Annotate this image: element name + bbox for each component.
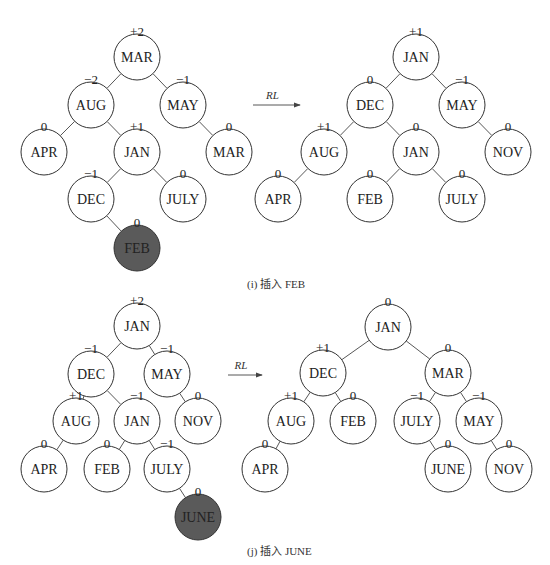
node-key: APR	[251, 462, 279, 477]
node-key: JAN	[124, 145, 150, 160]
node-key: NOV	[494, 462, 524, 477]
tree-edge	[342, 340, 369, 359]
balance-factor: −1	[472, 388, 486, 403]
tree-node-jan: JAN−1	[114, 388, 160, 444]
node-key: DEC	[77, 192, 105, 207]
tree-edge	[491, 441, 497, 450]
tree-edge	[432, 168, 446, 182]
tree-edge	[460, 392, 466, 401]
tree-edge	[107, 121, 121, 135]
tree-node-jan: JAN0	[393, 119, 439, 175]
balance-factor: +1	[130, 119, 144, 134]
node-key: MAY	[446, 98, 477, 113]
node-key: NOV	[493, 145, 523, 160]
tree-edge	[478, 121, 492, 135]
tree-i-after: JAN+1DEC0MAY−1AUG+1JAN0NOV0APR0FEB0JULY0	[255, 24, 531, 222]
tree-edge	[107, 343, 121, 358]
tree-edge	[60, 121, 74, 135]
node-key: FEB	[357, 192, 383, 207]
node-key: JAN	[124, 414, 150, 429]
node-key: MAR	[213, 145, 246, 160]
tree-edge	[386, 168, 400, 182]
tree-node-dec: DEC+1	[300, 340, 346, 396]
tree-node-feb: FEB0	[347, 166, 393, 222]
node-key: APR	[264, 192, 292, 207]
tree-edge	[406, 341, 429, 359]
tree-node-feb: FEB0	[114, 215, 160, 271]
balance-factor: 0	[195, 388, 202, 403]
tree-edge	[149, 346, 155, 355]
tree-node-jan: JAN0	[365, 294, 411, 350]
tree-node-jan: JAN+2	[114, 293, 160, 349]
tree-node-may: MAY−1	[144, 341, 190, 397]
rotation-arrow-j: RL	[228, 359, 262, 375]
balance-factor: +1	[284, 388, 298, 403]
balance-factor: +1	[409, 24, 423, 39]
node-key: DEC	[356, 98, 384, 113]
tree-edge	[429, 392, 435, 401]
node-key: DEC	[309, 366, 337, 381]
node-key: AUG	[76, 98, 106, 113]
node-key: JULY	[446, 192, 479, 207]
node-key: JAN	[403, 145, 429, 160]
rotation-label: RL	[234, 359, 248, 371]
tree-edge	[107, 390, 121, 404]
balance-factor: 0	[134, 215, 141, 230]
balance-factor: −1	[130, 388, 144, 403]
balance-factor: 0	[367, 166, 374, 181]
balance-factor: −1	[410, 388, 424, 403]
node-key: JULY	[151, 462, 184, 477]
tree-edge	[304, 392, 310, 402]
tree-edge	[83, 396, 84, 399]
node-key: MAY	[151, 367, 182, 382]
tree-node-july: JULY−1	[144, 436, 190, 492]
tree-node-mar: MAR0	[206, 119, 252, 175]
tree-node-mar: MAR+2	[114, 24, 160, 80]
tree-node-nov: NOV0	[486, 436, 532, 492]
balance-factor: 0	[506, 436, 513, 451]
tree-node-feb: FEB0	[330, 388, 376, 444]
balance-factor: −1	[84, 166, 98, 181]
balance-factor: 0	[226, 119, 233, 134]
tree-edge	[386, 74, 400, 89]
node-key: MAR	[432, 366, 465, 381]
balance-factor: 0	[180, 166, 187, 181]
balance-factor: 0	[41, 119, 48, 134]
balance-factor: 0	[195, 484, 202, 499]
tree-edge	[107, 74, 121, 89]
balance-factor: +1	[317, 119, 331, 134]
tree-node-jan: JAN+1	[393, 24, 439, 80]
tree-edge	[335, 393, 341, 402]
tree-edge	[119, 441, 125, 450]
tree-edge	[153, 168, 167, 182]
tree-node-nov: NOV0	[485, 119, 531, 175]
rotation-label: RL	[265, 89, 279, 101]
tree-edge	[153, 74, 167, 89]
node-key: NOV	[183, 414, 213, 429]
tree-node-may: MAY−1	[160, 72, 206, 128]
tree-edge	[386, 121, 400, 135]
node-key: MAY	[463, 414, 494, 429]
node-key: JUNE	[181, 510, 215, 525]
tree-edge	[107, 168, 121, 182]
tree-edge	[276, 441, 280, 449]
tree-node-apr: APR0	[255, 166, 301, 222]
node-key: JUNE	[431, 462, 465, 477]
balance-factor: −1	[160, 436, 174, 451]
balance-factor: −1	[84, 341, 98, 356]
balance-factor: −1	[176, 72, 190, 87]
balance-factor: 0	[275, 166, 282, 181]
balance-factor: +1	[316, 340, 330, 355]
tree-node-mar: MAR0	[425, 340, 471, 396]
balance-factor: 0	[445, 340, 452, 355]
node-key: JULY	[401, 414, 434, 429]
tree-edge	[199, 121, 213, 135]
balance-factor: 0	[459, 166, 466, 181]
rotation-arrow-i: RL	[253, 89, 300, 105]
node-key: AUG	[309, 145, 339, 160]
node-key: JAN	[375, 320, 401, 335]
tree-edge	[429, 440, 435, 449]
balance-factor: −2	[84, 72, 98, 87]
tree-edge	[180, 393, 186, 402]
tree-node-jan: JAN+1	[114, 119, 160, 175]
